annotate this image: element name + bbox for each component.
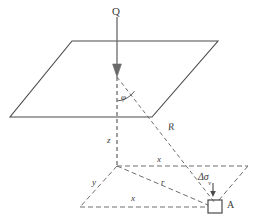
label-point-A: A xyxy=(227,200,234,210)
ground-edge-right xyxy=(219,166,248,200)
label-depth-z: z xyxy=(107,136,111,145)
ground-edge-left xyxy=(80,166,117,207)
label-y: y xyxy=(92,178,96,187)
label-stress-increment: Δσv xyxy=(198,172,212,184)
label-slant-R: R xyxy=(167,122,174,133)
upper-plane-outline xyxy=(10,41,218,117)
label-x-upper: x xyxy=(157,155,161,164)
diagram-svg xyxy=(0,0,260,220)
load-arrow-head xyxy=(113,64,122,77)
label-radial-r: r xyxy=(161,178,165,187)
label-angle-phi: φ xyxy=(121,93,126,102)
upper-plane xyxy=(10,41,218,117)
element-indicator-arrow xyxy=(210,183,216,197)
label-stress-increment-subscript: v xyxy=(208,179,211,186)
load-arrow-group xyxy=(113,17,122,77)
figure-canvas: Q φ R z x y r x Δσv A xyxy=(0,0,260,220)
label-x-lower: x xyxy=(131,194,135,203)
indicator-arrow-head xyxy=(210,191,216,197)
stress-element-square xyxy=(208,200,222,213)
label-load-Q: Q xyxy=(112,6,120,17)
